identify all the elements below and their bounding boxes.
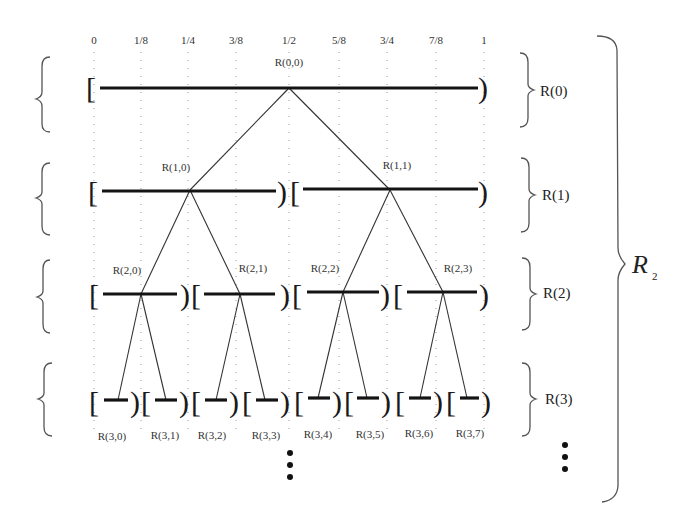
tick-label-3-8: 3/8 (229, 34, 244, 46)
node-label-r-0-0: R(0,0) (275, 56, 304, 69)
tree-edges (118, 88, 467, 400)
node-label-r-3-0: R(3,0) (98, 430, 127, 443)
open-bracket: [ (191, 385, 201, 418)
right-brace-level-1 (521, 158, 535, 232)
node-label-r-2-3: R(2,3) (444, 262, 473, 275)
open-bracket: [ (395, 385, 405, 418)
close-bracket: ) (179, 385, 189, 419)
tick-label-1-8: 1/8 (134, 34, 149, 46)
tick-label-1-4: 1/4 (181, 34, 196, 46)
level-1-intervals: R(1,0) R(1,1) [ ) [ ) (88, 159, 488, 209)
open-bracket: [ (88, 175, 98, 208)
open-bracket: [ (89, 278, 99, 311)
open-bracket: [ (446, 385, 456, 418)
close-bracket: ) (433, 385, 443, 419)
level-label-r-1: R(1) (542, 187, 570, 204)
level-2-intervals: R(2,0) R(2,1) R(2,2) R(2,3) [ ) [ ) [ ) … (89, 262, 489, 312)
open-bracket: [ (141, 385, 151, 418)
level-3-intervals: [ ) [ ) [ ) [ ) [ ) [ ) [ ) [ ) R(3,0) R… (89, 385, 491, 443)
left-brace-level-0 (36, 57, 50, 132)
level-0-intervals: R(0,0) [ ) (86, 56, 488, 105)
open-bracket: [ (344, 385, 354, 418)
tick-label-1: 1 (481, 34, 487, 46)
dyadic-interval-tree-diagram: 0 1/8 1/4 3/8 1/2 5/8 3/4 7/8 1 (0, 0, 693, 532)
open-bracket: [ (292, 278, 302, 311)
close-bracket: ) (481, 385, 491, 419)
open-bracket: [ (294, 385, 304, 418)
outer-brace-collection (597, 36, 625, 502)
close-bracket: ) (280, 278, 290, 312)
close-bracket: ) (380, 278, 390, 312)
node-label-r-3-2: R(3,2) (198, 429, 227, 442)
left-brace-level-1 (36, 163, 50, 235)
node-label-r-3-5: R(3,5) (356, 428, 385, 441)
close-bracket: ) (229, 385, 239, 419)
open-bracket: [ (242, 385, 252, 418)
tick-label-7-8: 7/8 (429, 34, 444, 46)
right-level-braces: R(0) R(1) R(2) R(3) (520, 53, 573, 436)
collection-label: R (631, 250, 648, 279)
level-label-r-2: R(2) (543, 285, 571, 302)
node-label-r-2-0: R(2,0) (113, 264, 142, 277)
node-label-r-3-6: R(3,6) (405, 427, 434, 440)
vertical-ellipsis-center (287, 450, 293, 480)
tick-label-5-8: 5/8 (332, 34, 347, 46)
level-label-r-0: R(0) (540, 83, 568, 100)
node-label-r-3-7: R(3,7) (456, 427, 485, 440)
node-label-r-3-4: R(3,4) (304, 428, 333, 441)
tick-label-3-4: 3/4 (380, 34, 395, 46)
close-bracket: ) (277, 175, 287, 209)
node-label-r-2-2: R(2,2) (311, 262, 340, 275)
node-label-r-3-1: R(3,1) (151, 429, 180, 442)
close-bracket: ) (479, 278, 489, 312)
level-label-r-3: R(3) (545, 391, 573, 408)
tick-label-0: 0 (91, 34, 97, 46)
tick-label-1-2: 1/2 (282, 34, 296, 46)
node-label-r-1-0: R(1,0) (162, 161, 191, 174)
left-braces (36, 57, 52, 436)
collection-subscript: 2 (652, 270, 658, 282)
node-label-r-2-1: R(2,1) (239, 262, 268, 275)
close-bracket: ) (180, 278, 190, 312)
close-bracket: ) (280, 385, 290, 419)
close-bracket: ) (478, 71, 488, 105)
right-brace-level-3 (522, 363, 536, 436)
open-bracket: [ (393, 278, 403, 311)
open-bracket: [ (89, 385, 99, 418)
open-bracket: [ (191, 278, 201, 311)
close-bracket: ) (130, 385, 140, 419)
axis-tick-labels: 0 1/8 1/4 3/8 1/2 5/8 3/4 7/8 1 (91, 34, 487, 46)
right-brace-level-0 (520, 53, 534, 127)
close-bracket: ) (381, 385, 391, 419)
left-brace-level-2 (37, 260, 50, 333)
left-brace-level-3 (38, 363, 52, 436)
close-bracket: ) (478, 175, 488, 209)
node-label-r-3-3: R(3,3) (252, 429, 281, 442)
collection-label-r2: R 2 (631, 250, 658, 282)
open-bracket: [ (290, 175, 300, 208)
vertical-ellipsis-right (562, 442, 568, 472)
open-bracket: [ (86, 71, 96, 104)
right-brace-level-2 (522, 258, 536, 330)
close-bracket: ) (332, 385, 342, 419)
node-label-r-1-1: R(1,1) (383, 159, 412, 172)
